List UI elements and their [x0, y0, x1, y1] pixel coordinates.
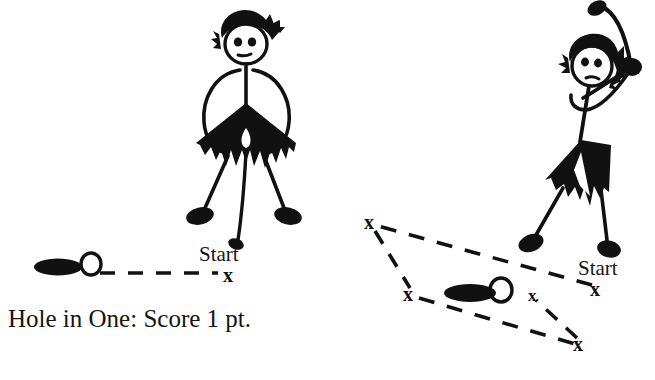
hair-right-golfer: [558, 34, 630, 90]
eye-right-golfer-right: [594, 59, 602, 68]
shot-path-4: [536, 300, 577, 338]
start-label-left: Start: [199, 242, 239, 266]
eye-right-golfer-left: [581, 58, 589, 67]
mouth-left-golfer: [238, 54, 251, 56]
shot-path-1: [378, 226, 592, 285]
eye-left-golfer-left: [234, 37, 242, 46]
x-mark-mid-left: x: [403, 283, 413, 305]
mouth-right-golfer: [586, 77, 599, 79]
leg-right-golfer-right: [601, 190, 607, 240]
x-mark-near-ball: x: [528, 286, 537, 305]
leg-right-golfer-left: [536, 188, 563, 235]
illustration-scene: x Start: [0, 0, 655, 380]
caption-hole-in-one: Hole in One: Score 1 pt.: [8, 305, 251, 332]
x-mark-upper-left: x: [364, 211, 374, 233]
x-mark-right-start: x: [590, 278, 600, 300]
club-shaft-left-golfer: [238, 152, 246, 240]
leg-left-golfer-right: [264, 156, 284, 208]
golfer-swinging-figure: [516, 0, 642, 260]
hole-left-panel: [34, 259, 82, 276]
start-label-right: Start: [578, 256, 618, 280]
eye-left-golfer-right: [248, 37, 256, 46]
foot-left-golfer-left: [184, 205, 215, 228]
x-mark-bottom-right: x: [573, 333, 583, 355]
hole-right-panel: [444, 284, 496, 302]
ball-left-panel: [81, 253, 101, 275]
head-left-golfer: [225, 24, 267, 64]
stick-figure-golf-illustration: x Start: [0, 0, 655, 380]
shot-path-2: [375, 231, 410, 288]
shot-path-3: [419, 298, 575, 344]
foot-right-golfer-left: [516, 230, 546, 256]
golfer-standing-figure: [184, 10, 303, 252]
x-mark-left-start: x: [223, 264, 233, 286]
head-right-golfer: [572, 46, 612, 86]
foot-left-golfer-right: [272, 205, 303, 228]
leg-left-golfer-left: [205, 156, 228, 208]
